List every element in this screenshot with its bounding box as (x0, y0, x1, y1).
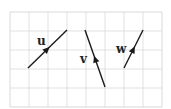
arrow-icon (93, 56, 99, 64)
vector-diagram: u v w (0, 0, 171, 109)
vector-u-label: u (37, 34, 46, 48)
vectors: u v w (28, 30, 143, 87)
vector-w: w (115, 30, 143, 68)
vector-u: u (28, 30, 67, 68)
vector-v-label: v (79, 52, 88, 66)
vector-v: v (79, 30, 105, 87)
vector-w-label: w (115, 42, 127, 56)
